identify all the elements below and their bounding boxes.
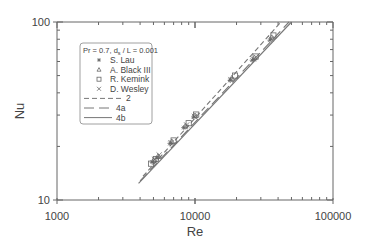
series-r-kemink	[148, 33, 276, 166]
y-tick-10: 10	[38, 194, 50, 206]
line-4b	[139, 22, 292, 183]
series-s-lau	[150, 38, 273, 165]
svg-text:4a: 4a	[116, 103, 126, 113]
x-axis-title: Re	[187, 224, 204, 239]
data-points	[148, 33, 276, 166]
chart: 100 10 1000 10000 100000 Re Nu Pr = 0.7,…	[0, 0, 366, 249]
y-tick-100: 100	[32, 16, 50, 28]
x-tick-100000: 100000	[315, 210, 352, 222]
svg-text:R. Kemink: R. Kemink	[110, 74, 150, 84]
legend: Pr = 0.7, ds / L = 0.001 S. LauA. Black …	[80, 43, 158, 124]
y-axis-title: Nu	[12, 103, 27, 120]
svg-text:4b: 4b	[116, 113, 126, 123]
x-tick-1000: 1000	[45, 210, 69, 222]
line-2	[143, 22, 281, 176]
fit-lines	[139, 22, 292, 183]
svg-text:D. Wesley: D. Wesley	[110, 84, 149, 94]
series-d-wesley	[152, 36, 273, 162]
svg-text:2: 2	[126, 93, 131, 103]
svg-text:S. Lau: S. Lau	[110, 55, 135, 65]
svg-text:A. Black III: A. Black III	[110, 65, 151, 75]
x-tick-10000: 10000	[180, 210, 211, 222]
line-4a	[140, 22, 289, 181]
